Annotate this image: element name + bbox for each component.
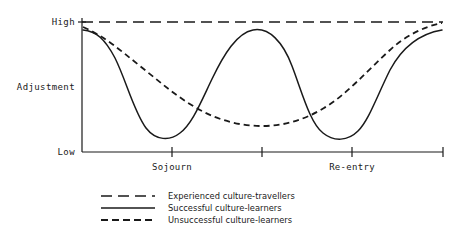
y-axis-low-label: Low (58, 147, 76, 157)
x-axis-reentry-label: Re-entry (329, 162, 375, 172)
adjustment-line-chart: High Low Adjustment Sojourn Re-entry Exp… (0, 0, 467, 236)
y-axis-title: Adjustment (17, 82, 75, 92)
x-axis-sojourn-label: Sojourn (152, 162, 192, 172)
legend-label-successful-culture-learners: Successful culture-learners (168, 203, 282, 213)
y-axis-high-label: High (52, 17, 75, 27)
legend-label-experienced-culture-travellers: Experienced culture-travellers (168, 191, 295, 201)
chart-figure: High Low Adjustment Sojourn Re-entry Exp… (0, 0, 467, 236)
legend-label-unsuccessful-culture-learners: Unsuccessful culture-learners (168, 215, 292, 225)
